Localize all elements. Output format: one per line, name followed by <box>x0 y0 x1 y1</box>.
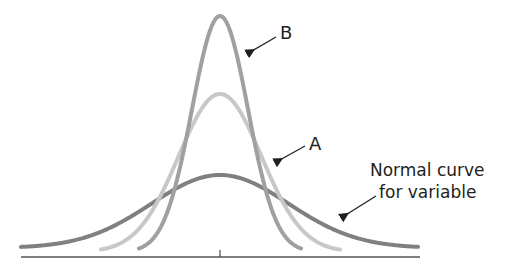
normal-curves-diagram <box>0 0 514 268</box>
normal-curve-wide <box>21 175 418 247</box>
curve-a <box>101 94 340 250</box>
arrow-b <box>250 37 276 52</box>
label-normal-curve: Normal curve for variable <box>370 159 485 203</box>
label-normal-line1: Normal curve <box>370 160 485 180</box>
label-normal-line2: for variable <box>370 181 485 203</box>
label-a: A <box>309 133 321 154</box>
curve-b <box>139 16 301 248</box>
arrow-a <box>278 146 305 161</box>
label-b: B <box>280 22 292 43</box>
